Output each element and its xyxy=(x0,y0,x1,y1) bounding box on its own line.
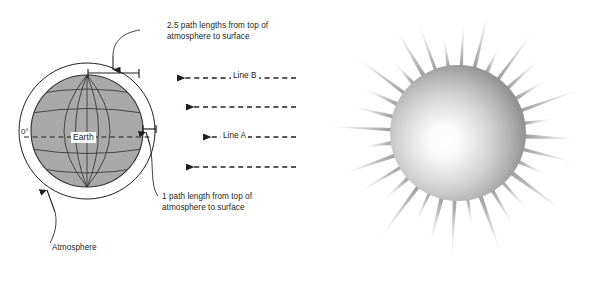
leader-1-path xyxy=(150,145,158,196)
figure-canvas: 2.5 path lengths from top of atmosphere … xyxy=(0,0,602,286)
sun-ray xyxy=(503,56,544,93)
solar-rays xyxy=(177,78,296,167)
sun-ray xyxy=(506,168,569,216)
pointer-atmosphere xyxy=(47,190,55,212)
label-2-5-path-lengths: 2.5 path lengths from top of atmosphere … xyxy=(167,21,268,42)
sun-ray xyxy=(451,195,457,265)
leader-atmosphere xyxy=(50,212,56,243)
earth-atmosphere-panel: 2.5 path lengths from top of atmosphere … xyxy=(0,0,302,286)
sun-ray xyxy=(347,50,410,97)
sun-illustration-svg xyxy=(300,0,602,286)
leader-25-path xyxy=(113,30,140,56)
earth-diagram-svg xyxy=(0,0,302,286)
label-line-b: Line B xyxy=(231,71,259,82)
sun-ray xyxy=(520,134,584,140)
label-atmosphere: Atmosphere xyxy=(52,243,97,254)
sun-disc xyxy=(390,65,526,201)
sun-ray xyxy=(375,182,423,246)
sun-ray xyxy=(392,23,428,81)
sun-ray xyxy=(429,193,446,250)
sun-ray xyxy=(518,146,582,164)
label-line-a: Line A xyxy=(221,131,248,142)
sun-ray xyxy=(494,24,539,84)
label-earth: Earth xyxy=(71,132,96,143)
label-equator-degrees: 0° xyxy=(21,127,29,138)
sun-ray xyxy=(348,105,398,120)
sun-panel xyxy=(300,0,602,286)
sun-ray xyxy=(459,14,464,71)
label-1-path-length: 1 path length from top of atmosphere to … xyxy=(162,192,252,213)
sun-ray xyxy=(321,126,396,132)
sun-ray xyxy=(471,4,490,74)
